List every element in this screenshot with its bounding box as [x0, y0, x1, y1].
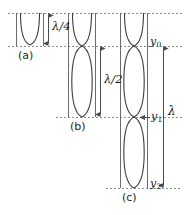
y0-subscript: 0 [157, 40, 162, 49]
y2-node-label: y2 [150, 178, 161, 189]
y1-node-label: y1 [151, 111, 162, 122]
y0-symbol: y [150, 35, 156, 48]
panel-c-tag: (c) [122, 192, 137, 203]
lambda-full-label: λ [168, 105, 176, 117]
panel-b-tag: (b) [70, 121, 86, 132]
lambda-quarter-label: λ/4 [52, 21, 70, 33]
y1-symbol: y [151, 110, 157, 123]
standing-wave-figure: λ/4 λ/2 λ y0 y1 y2 (a) (b) (c) [0, 0, 186, 215]
y2-symbol: y [150, 177, 156, 190]
lambda-quarter-text: λ/4 [52, 19, 70, 33]
lambda-full-text: λ [168, 104, 176, 118]
panel-a-tag: (a) [18, 50, 33, 61]
y0-node-label: y0 [150, 36, 161, 47]
y2-subscript: 2 [157, 182, 162, 191]
y1-subscript: 1 [158, 115, 163, 124]
lambda-half-text: λ/2 [104, 72, 122, 86]
lambda-half-label: λ/2 [104, 74, 122, 86]
